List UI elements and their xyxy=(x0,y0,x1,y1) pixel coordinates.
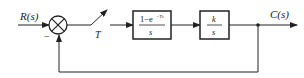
zoh-exponent: −Ts xyxy=(156,14,164,19)
input-signal: R(s) xyxy=(18,10,49,25)
zero-order-hold-block: 1−e −Ts s xyxy=(133,11,171,39)
zoh-numerator: 1−e xyxy=(140,14,153,24)
minus-sign: − xyxy=(44,31,50,42)
output-signal: C(s) xyxy=(229,8,297,25)
plant-numerator: k xyxy=(212,14,216,24)
output-label: C(s) xyxy=(270,8,289,21)
sampler-switch: T xyxy=(91,10,107,40)
block-diagram: R(s) − T 1−e −Ts s k s C(s) xyxy=(0,0,304,78)
summing-junction: − xyxy=(44,16,67,42)
plant-block: k s xyxy=(200,11,229,39)
sampling-period-label: T xyxy=(95,29,102,40)
input-label: R(s) xyxy=(19,10,39,23)
